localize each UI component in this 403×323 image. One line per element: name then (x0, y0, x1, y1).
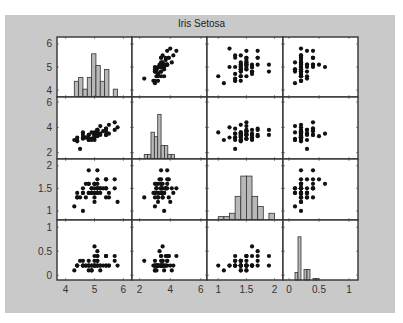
data-point (305, 147, 309, 151)
data-point (299, 195, 303, 199)
data-point (305, 191, 309, 195)
data-point (95, 128, 99, 132)
data-point (107, 195, 111, 199)
data-point (305, 49, 309, 53)
data-point (98, 268, 102, 272)
y-tick-label: 0 (46, 270, 52, 281)
x-tick-label: 6 (198, 284, 204, 295)
data-point (323, 65, 327, 69)
data-point (142, 259, 146, 263)
data-point (317, 134, 321, 138)
data-point (299, 53, 303, 57)
data-point (256, 56, 260, 60)
data-point (293, 67, 297, 71)
data-point (299, 177, 303, 181)
data-point (167, 195, 171, 199)
data-point (323, 182, 327, 186)
data-point (170, 268, 174, 272)
data-point (157, 249, 161, 253)
data-point (161, 53, 165, 57)
data-point (162, 209, 166, 213)
x-tick-label: 5 (92, 284, 98, 295)
cell-sepal_width-vs-sepal_length (57, 97, 132, 159)
data-point (239, 53, 243, 57)
data-point (104, 177, 108, 181)
data-point (239, 70, 243, 74)
data-point (305, 76, 309, 80)
data-point (250, 137, 254, 141)
data-point (299, 123, 303, 127)
data-point (311, 133, 315, 137)
x-tick-label: 4 (167, 284, 173, 295)
data-point (317, 63, 321, 67)
histogram-bar (151, 132, 154, 159)
y-tick-label: 0.5 (38, 246, 52, 257)
data-point (267, 133, 271, 137)
data-point (267, 70, 271, 74)
data-point (156, 195, 160, 199)
data-point (299, 191, 303, 195)
data-point (299, 58, 303, 62)
cell-petal_length-vs-petal_width (283, 159, 358, 220)
data-point (157, 191, 161, 195)
data-point (299, 79, 303, 83)
data-point (156, 74, 160, 78)
data-point (293, 130, 297, 134)
data-point (244, 133, 248, 137)
data-point (227, 264, 231, 268)
data-point (305, 70, 309, 74)
data-point (233, 53, 237, 57)
data-point (174, 49, 178, 53)
x-tick-label: 1.5 (239, 284, 253, 295)
data-point (299, 186, 303, 190)
data-point (90, 186, 94, 190)
histogram-bar (92, 54, 96, 97)
data-point (87, 259, 91, 263)
data-point (239, 65, 243, 69)
data-point (222, 138, 226, 142)
data-point (81, 191, 85, 195)
data-point (256, 134, 260, 138)
data-point (159, 254, 163, 258)
data-point (299, 46, 303, 50)
data-point (165, 254, 169, 258)
y-tick-label: 1.5 (38, 183, 52, 194)
data-point (244, 120, 248, 124)
data-point (227, 125, 231, 129)
data-point (216, 264, 220, 268)
data-point (98, 191, 102, 195)
data-point (157, 65, 161, 69)
histogram-bar (105, 70, 109, 97)
data-point (115, 264, 119, 268)
data-point (161, 182, 165, 186)
data-point (244, 129, 248, 133)
histogram-bar (235, 196, 241, 220)
data-point (107, 264, 111, 268)
data-point (174, 186, 178, 190)
data-point (267, 264, 271, 268)
histogram-bar (269, 213, 275, 220)
data-point (227, 46, 231, 50)
data-point (244, 67, 248, 71)
data-point (311, 168, 315, 172)
data-point (233, 259, 237, 263)
cell-sepal_length-vs-petal_length (207, 37, 283, 97)
y-tick-label: 6 (46, 38, 52, 49)
data-point (305, 128, 309, 132)
histogram-bar (246, 176, 252, 220)
data-point (305, 65, 309, 69)
data-point (293, 191, 297, 195)
data-point (233, 135, 237, 139)
x-tick-label: 0 (286, 284, 292, 295)
data-point (293, 124, 297, 128)
histogram-bar (241, 176, 247, 220)
data-point (250, 132, 254, 136)
cell-sepal_width-vs-petal_length (207, 97, 283, 159)
data-point (101, 264, 105, 268)
data-point (293, 81, 297, 85)
data-point (81, 135, 85, 139)
histogram-bar (298, 237, 301, 280)
data-point (299, 200, 303, 204)
data-point (87, 182, 91, 186)
data-point (153, 204, 157, 208)
